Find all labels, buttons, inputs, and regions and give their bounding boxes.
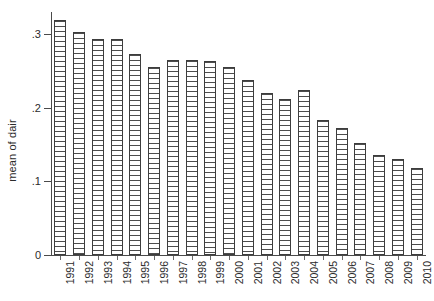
x-tick-mark — [267, 256, 268, 260]
x-tick-label: 1993 — [103, 261, 114, 297]
bar — [204, 61, 216, 255]
x-tick-mark — [135, 256, 136, 260]
x-tick-mark — [304, 256, 305, 260]
x-tick-label: 1999 — [215, 261, 226, 297]
x-tick-mark — [342, 256, 343, 260]
bar — [186, 60, 198, 255]
x-tick-label: 2005 — [328, 261, 339, 297]
bar — [261, 93, 273, 255]
y-tick-mark — [44, 34, 51, 35]
x-tick-label: 1995 — [140, 261, 151, 297]
y-tick-label: .1 — [1, 175, 41, 187]
bar — [129, 54, 141, 255]
bar — [411, 168, 423, 255]
bar — [317, 120, 329, 255]
x-tick-label: 2000 — [234, 261, 245, 297]
y-tick-label: .2 — [1, 102, 41, 114]
x-tick-label: 2010 — [422, 261, 433, 297]
x-tick-label: 2002 — [272, 261, 283, 297]
x-tick-label: 2006 — [347, 261, 358, 297]
bar — [354, 143, 366, 255]
x-axis-line — [51, 255, 426, 256]
x-tick-mark — [173, 256, 174, 260]
x-tick-label: 1992 — [84, 261, 95, 297]
bar-chart: mean of dair 0.1.2.3 1991199219931994199… — [0, 0, 434, 301]
bar — [392, 159, 404, 255]
x-tick-label: 2004 — [309, 261, 320, 297]
x-tick-mark — [60, 256, 61, 260]
y-tick-label: .3 — [1, 28, 41, 40]
x-tick-mark — [98, 256, 99, 260]
x-tick-mark — [154, 256, 155, 260]
x-tick-label: 1994 — [122, 261, 133, 297]
y-tick-mark — [44, 108, 51, 109]
x-tick-mark — [210, 256, 211, 260]
bar — [148, 67, 160, 255]
x-tick-mark — [285, 256, 286, 260]
x-tick-mark — [323, 256, 324, 260]
x-tick-label: 1997 — [178, 261, 189, 297]
bar — [298, 90, 310, 255]
x-tick-mark — [417, 256, 418, 260]
x-tick-mark — [360, 256, 361, 260]
bar — [223, 67, 235, 255]
x-tick-label: 2007 — [365, 261, 376, 297]
x-tick-mark — [379, 256, 380, 260]
x-tick-label: 2001 — [253, 261, 264, 297]
x-tick-label: 1998 — [197, 261, 208, 297]
bar — [242, 80, 254, 255]
bar — [167, 60, 179, 255]
bar — [54, 20, 66, 255]
bar — [111, 39, 123, 255]
x-tick-label: 1996 — [159, 261, 170, 297]
y-tick-mark — [44, 255, 51, 256]
x-tick-mark — [79, 256, 80, 260]
x-tick-label: 2009 — [403, 261, 414, 297]
y-tick-label: 0 — [1, 249, 41, 261]
bars-layer — [51, 12, 426, 255]
x-tick-mark — [248, 256, 249, 260]
x-tick-mark — [229, 256, 230, 260]
x-tick-label: 2003 — [290, 261, 301, 297]
y-tick-mark — [44, 181, 51, 182]
bar — [92, 39, 104, 255]
x-tick-mark — [192, 256, 193, 260]
x-tick-label: 1991 — [65, 261, 76, 297]
bar — [73, 32, 85, 255]
bar — [373, 155, 385, 255]
bar — [279, 99, 291, 255]
x-tick-mark — [117, 256, 118, 260]
bar — [336, 128, 348, 255]
x-tick-mark — [398, 256, 399, 260]
x-tick-label: 2008 — [384, 261, 395, 297]
